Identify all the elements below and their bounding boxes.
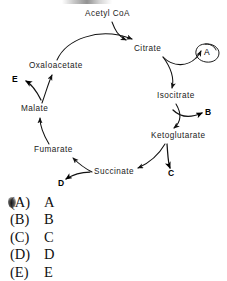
arrow-malate-to-oxaloacetate bbox=[42, 75, 52, 103]
choice-a-bubble[interactable]: (A) bbox=[10, 194, 44, 211]
node-label-citrate: Citrate bbox=[134, 45, 161, 53]
arrow-citrate-to-isocitrate bbox=[163, 57, 173, 88]
branch-label-e: E bbox=[12, 75, 18, 84]
choice-c-bubble[interactable]: (C) bbox=[10, 229, 44, 246]
arrow-ketoglutarate-to-succinate bbox=[138, 144, 165, 168]
node-label-oxaloacetate: Oxaloacetate bbox=[29, 62, 83, 70]
branch-label-d: D bbox=[58, 179, 64, 188]
node-label-succinate: Succinate bbox=[94, 168, 134, 176]
arrow-oxaloacetate-to-citrate bbox=[57, 34, 132, 60]
arrow-branch-e bbox=[26, 81, 41, 100]
branch-label-c: C bbox=[168, 169, 174, 178]
answer-choice-list: (A) A (B) B (C) C (D) D (E) E bbox=[0, 194, 227, 281]
arrow-branch-d bbox=[66, 172, 90, 179]
node-label-fumarate: Fumarate bbox=[34, 146, 73, 154]
branch-label-b: B bbox=[205, 108, 211, 117]
node-label-ketoglutarate: Ketoglutarate bbox=[151, 132, 206, 140]
choice-e-label: E bbox=[44, 264, 53, 281]
arrow-fumarate-to-malate bbox=[40, 118, 49, 144]
arrow-acetylcoa-to-citrate bbox=[112, 22, 126, 40]
answer-choice-c[interactable]: (C) C bbox=[0, 229, 227, 246]
choice-e-bubble[interactable]: (E) bbox=[10, 264, 44, 281]
choice-b-label: B bbox=[44, 211, 54, 228]
choice-d-bubble[interactable]: (D) bbox=[10, 246, 44, 263]
question-page: Acetyl CoA Citrate Isocitrate Ketoglutar… bbox=[0, 0, 227, 281]
choice-c-label: C bbox=[44, 229, 54, 246]
branch-line-a bbox=[163, 57, 196, 65]
node-label-isocitrate: Isocitrate bbox=[157, 92, 195, 100]
answer-choice-e[interactable]: (E) E bbox=[0, 264, 227, 281]
answer-choice-d[interactable]: (D) D bbox=[0, 246, 227, 263]
choice-d-label: D bbox=[44, 246, 54, 263]
arrow-branch-b bbox=[173, 110, 202, 116]
answer-choice-a[interactable]: (A) A bbox=[0, 194, 227, 211]
krebs-cycle-diagram: Acetyl CoA Citrate Isocitrate Ketoglutar… bbox=[0, 0, 227, 195]
arrow-branch-c bbox=[167, 144, 170, 168]
choice-a-label: A bbox=[44, 194, 54, 211]
answer-choice-b[interactable]: (B) B bbox=[0, 211, 227, 228]
node-label-malate: Malate bbox=[21, 105, 48, 113]
arrow-succinate-to-fumarate bbox=[73, 158, 92, 172]
branch-label-a: A bbox=[204, 48, 210, 57]
node-label-acetyl-coa: Acetyl CoA bbox=[85, 10, 130, 18]
choice-b-bubble[interactable]: (B) bbox=[10, 211, 44, 228]
arrow-isocitrate-to-ketoglutarate bbox=[174, 104, 180, 128]
